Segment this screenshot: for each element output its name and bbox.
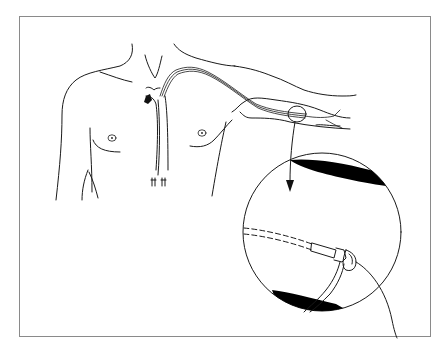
- catheter-hub: [304, 243, 397, 338]
- zoom-arrow: [286, 122, 295, 192]
- vena-cava: [144, 87, 168, 186]
- diagram-canvas: [0, 0, 446, 351]
- picc-line-diagram: Illustration of a peripherally inserted …: [0, 0, 446, 351]
- torso-outline: [56, 44, 235, 200]
- magnified-inset: [243, 153, 401, 312]
- outstretched-left-arm: [232, 66, 356, 129]
- catheter-line: [160, 67, 342, 128]
